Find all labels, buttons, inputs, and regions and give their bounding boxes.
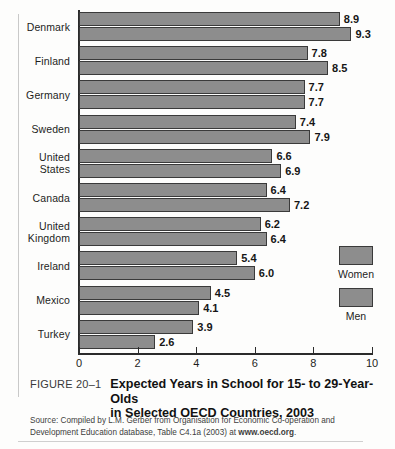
bar-men (79, 232, 267, 246)
x-axis-tick (313, 347, 314, 354)
bar-value-label: 7.9 (314, 130, 329, 144)
bar-value-label: 8.5 (332, 61, 347, 75)
legend-item-women: Women (326, 246, 386, 280)
bar-value-label: 6.6 (276, 149, 291, 163)
bar-value-label: 6.0 (259, 266, 274, 280)
category-label: Germany (26, 89, 70, 101)
legend-label-men: Men (326, 310, 386, 322)
bar-women (79, 46, 308, 60)
legend-swatch-men (339, 288, 373, 307)
source-line-2-suffix: . (294, 428, 296, 437)
chart-legend: WomenMen (326, 246, 386, 330)
bar-value-label: 3.9 (197, 320, 212, 334)
x-axis-tick-label: 2 (135, 357, 141, 369)
category-label: Turkey (38, 328, 70, 340)
bar-value-label: 6.2 (265, 217, 280, 231)
bar-women (79, 149, 272, 163)
bar-value-label: 7.7 (309, 95, 324, 109)
figure-number: FIGURE 20–1 (30, 377, 101, 390)
source-line-1: Source: Compiled by L.M. Gerber from Org… (30, 416, 335, 425)
bar-men (79, 61, 328, 75)
bar-women (79, 183, 267, 197)
category-label: Sweden (31, 123, 70, 135)
category-label: Canada (33, 192, 70, 204)
bar-men (79, 164, 281, 178)
category-label: Denmark (27, 21, 70, 33)
bar-value-label: 2.6 (159, 335, 174, 349)
x-axis-tick (372, 347, 373, 354)
figure-title: Expected Years in School for 15- to 29-Y… (110, 377, 380, 421)
figure-container: Denmark8.99.3Finland7.88.5Germany7.77.7S… (0, 0, 395, 449)
x-axis-tick-label: 0 (76, 357, 82, 369)
x-axis-tick-label: 6 (252, 357, 258, 369)
x-axis-tick-label: 8 (310, 357, 316, 369)
figure-title-line-1: Expected Years in School for 15- to 29-Y… (110, 377, 373, 406)
bar-value-label: 7.4 (300, 115, 315, 129)
bar-value-label: 4.5 (215, 286, 230, 300)
bar-value-label: 7.7 (309, 80, 324, 94)
bar-women (79, 320, 193, 334)
category-label: Mexico (36, 294, 70, 306)
category-label: United States (39, 151, 70, 175)
bar-men (79, 335, 155, 349)
bar-men (79, 198, 290, 212)
x-axis-tick (196, 347, 197, 354)
category-label: Ireland (37, 260, 70, 272)
bar-value-label: 6.4 (271, 232, 286, 246)
bar-men (79, 130, 310, 144)
x-axis-tick (79, 347, 80, 354)
bottom-divider-rule (18, 441, 363, 442)
bar-value-label: 8.9 (344, 12, 359, 26)
source-url[interactable]: www.oecd.org (238, 428, 294, 437)
bar-women (79, 12, 340, 26)
category-label: United Kingdom (28, 220, 70, 244)
bar-women (79, 217, 261, 231)
bar-value-label: 6.9 (285, 164, 300, 178)
bar-women (79, 80, 305, 94)
x-axis-tick-label: 4 (193, 357, 199, 369)
figure-source-note: Source: Compiled by L.M. Gerber from Org… (30, 415, 370, 438)
bar-value-label: 7.8 (312, 46, 327, 60)
x-axis-line (78, 353, 373, 355)
bar-men (79, 95, 305, 109)
x-axis-tick-label: 10 (366, 357, 378, 369)
bar-women (79, 251, 237, 265)
figure-caption: FIGURE 20–1 Expected Years in School for… (30, 377, 380, 421)
x-axis-tick (255, 347, 256, 354)
bar-men (79, 27, 351, 41)
category-label: Finland (35, 55, 70, 67)
bar-men (79, 301, 199, 315)
legend-item-men: Men (326, 288, 386, 322)
bar-women (79, 115, 296, 129)
bar-value-label: 9.3 (355, 27, 370, 41)
x-axis-tick (138, 347, 139, 354)
bar-men (79, 266, 255, 280)
legend-label-women: Women (326, 268, 386, 280)
legend-swatch-women (339, 246, 373, 265)
bar-value-label: 5.4 (241, 251, 256, 265)
bar-value-label: 6.4 (271, 183, 286, 197)
bar-women (79, 286, 211, 300)
bar-value-label: 4.1 (203, 301, 218, 315)
source-line-2-prefix: Development Education database, Table C4… (30, 428, 238, 437)
bar-value-label: 7.2 (294, 198, 309, 212)
